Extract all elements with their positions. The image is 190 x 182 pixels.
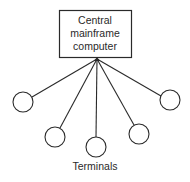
mainframe-label-line-1: Central [78,14,112,27]
mainframe-label: Central mainframe computer [59,10,131,57]
terminal-node-3 [86,137,106,157]
connection-line-4 [97,59,134,125]
terminal-node-5 [160,90,180,110]
connection-line-3 [96,59,97,137]
terminal-node-1 [13,92,33,112]
terminal-node-2 [45,127,65,147]
mainframe-label-line-2: mainframe [70,27,120,40]
connection-line-5 [97,59,161,96]
terminals-label: Terminals [0,160,190,172]
mainframe-label-line-3: computer [73,40,117,53]
terminal-node-4 [129,124,149,144]
network-diagram: Central mainframe computer Terminals [0,0,190,182]
